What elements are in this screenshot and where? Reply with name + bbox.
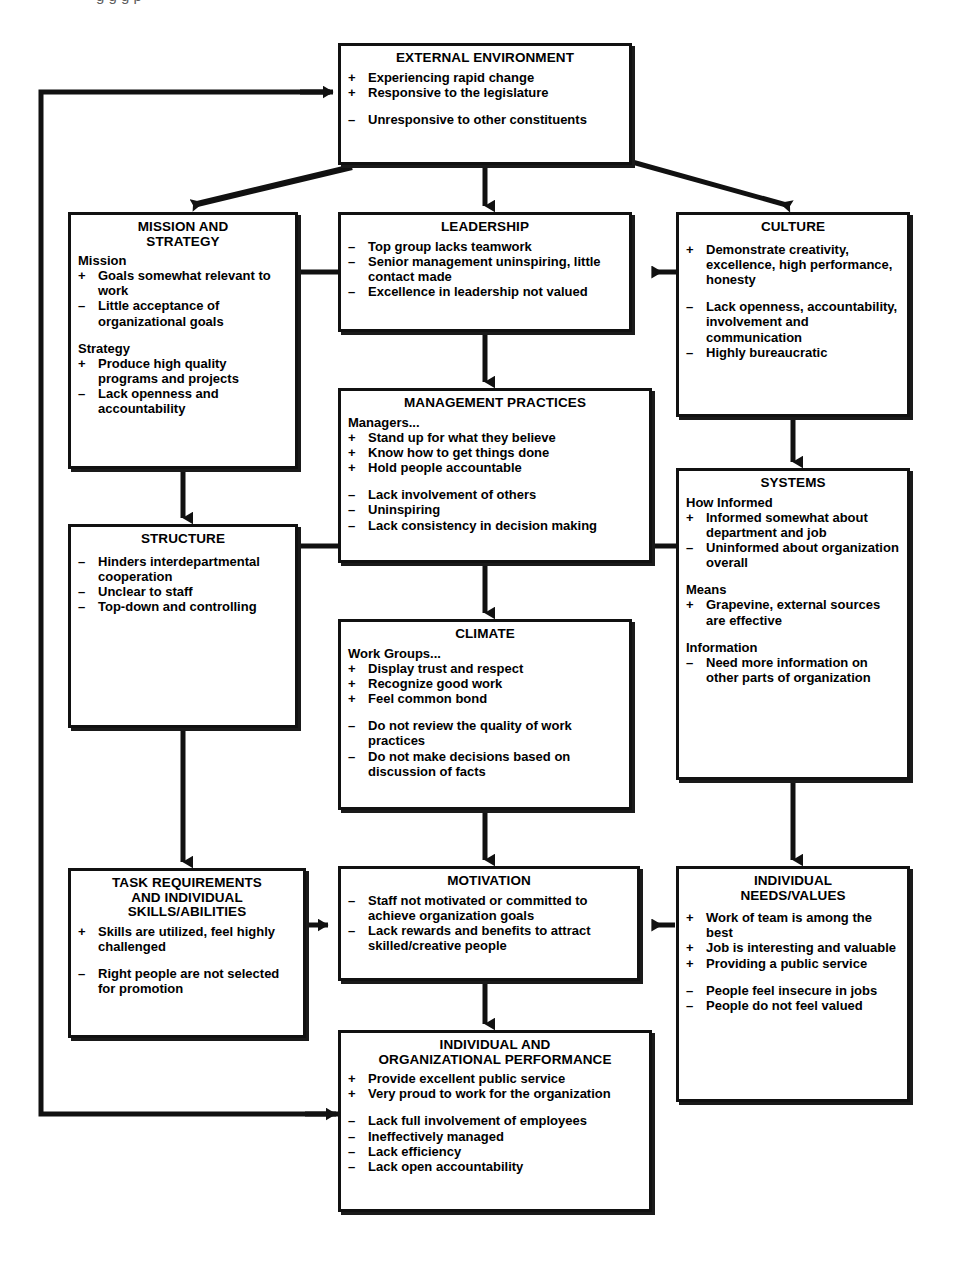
node-body: TASK REQUIREMENTS AND INDIVIDUAL SKILLS/… (71, 871, 303, 1002)
node-culture[interactable]: CULTURE +Demonstrate creativity, excelle… (676, 212, 910, 417)
item-text: Right people are not selected for promot… (98, 966, 279, 996)
item-text: Highly bureaucratic (706, 345, 827, 360)
list-item: –Need more information on other parts of… (686, 655, 900, 685)
node-body: EXTERNAL ENVIRONMENT +Experiencing rapid… (341, 46, 629, 133)
section-subhead: Managers... (348, 415, 642, 430)
list-item: –Lack involvement of others (348, 487, 642, 502)
item-sign: – (686, 983, 700, 998)
item-text: Senior management uninspiring, little co… (368, 254, 601, 284)
item-sign: + (78, 924, 92, 939)
item-text: Staff not motivated or committed to achi… (368, 893, 588, 923)
node-leadership[interactable]: LEADERSHIP –Top group lacks teamwork –Se… (338, 212, 632, 332)
node-external-environment[interactable]: EXTERNAL ENVIRONMENT +Experiencing rapid… (338, 43, 632, 165)
item-text: People do not feel valued (706, 998, 863, 1013)
node-motivation[interactable]: MOTIVATION –Staff not motivated or commi… (338, 866, 640, 981)
node-item-list: +Provide excellent public service +Very … (348, 1071, 642, 1174)
cropped-caption-text: g g g p (96, 0, 142, 4)
node-mission-and-strategy[interactable]: MISSION AND STRATEGY Mission +Goals some… (68, 212, 298, 469)
list-item: +Providing a public service (686, 956, 900, 971)
node-body: INDIVIDUAL AND ORGANIZATIONAL PERFORMANC… (341, 1033, 649, 1180)
item-text: Know how to get things done (368, 445, 549, 460)
item-sign: + (348, 430, 362, 445)
item-sign: – (348, 502, 362, 517)
item-sign: + (348, 1086, 362, 1101)
node-title: MANAGEMENT PRACTICES (348, 396, 642, 411)
list-item: +Demonstrate creativity, excellence, hig… (686, 242, 900, 288)
item-sign: + (686, 242, 700, 257)
node-management-practices[interactable]: MANAGEMENT PRACTICES Managers... +Stand … (338, 388, 652, 563)
node-task-requirements-and-individual-skills[interactable]: TASK REQUIREMENTS AND INDIVIDUAL SKILLS/… (68, 868, 306, 1038)
item-text: Lack openness and accountability (98, 386, 219, 416)
list-item: –Right people are not selected for promo… (78, 966, 296, 996)
node-systems[interactable]: SYSTEMS How Informed +Informed somewhat … (676, 468, 910, 780)
item-sign: + (348, 445, 362, 460)
item-sign: – (348, 1113, 362, 1128)
item-text: Lack full involvement of employees (368, 1113, 587, 1128)
node-body: STRUCTURE –Hinders interdepartmental coo… (71, 527, 295, 620)
list-item: +Skills are utilized, feel highly challe… (78, 924, 296, 954)
item-text: Little acceptance of organizational goal… (98, 298, 224, 328)
item-sign: – (78, 554, 92, 569)
item-sign: – (348, 284, 362, 299)
list-item: –Uninspiring (348, 502, 642, 517)
item-text: Ineffectively managed (368, 1129, 504, 1144)
node-item-list: +Grapevine, external sources are effecti… (686, 597, 900, 627)
node-item-list: +Goals somewhat relevant to work –Little… (78, 268, 288, 329)
item-text: Goals somewhat relevant to work (98, 268, 271, 298)
item-sign: – (78, 599, 92, 614)
list-item: –Top group lacks teamwork (348, 239, 622, 254)
node-title: EXTERNAL ENVIRONMENT (348, 51, 622, 66)
item-sign: + (686, 597, 700, 612)
node-title: CULTURE (686, 220, 900, 235)
list-item: –Lack rewards and benefits to attract sk… (348, 923, 630, 953)
node-individual-needs-values[interactable]: INDIVIDUAL NEEDS/VALUES +Work of team is… (676, 866, 910, 1102)
item-sign: – (348, 112, 362, 127)
item-sign: – (348, 1159, 362, 1174)
list-item: +Grapevine, external sources are effecti… (686, 597, 900, 627)
list-item: –Top-down and controlling (78, 599, 288, 614)
node-body: MISSION AND STRATEGY Mission +Goals some… (71, 215, 295, 423)
node-title: MISSION AND STRATEGY (78, 220, 288, 249)
section-subhead: How Informed (686, 495, 900, 510)
item-sign: + (686, 940, 700, 955)
item-text: Produce high quality programs and projec… (98, 356, 239, 386)
section-subhead: Mission (78, 253, 288, 268)
item-sign: + (78, 268, 92, 283)
node-title: SYSTEMS (686, 476, 900, 491)
item-sign: – (348, 1144, 362, 1159)
node-body: MANAGEMENT PRACTICES Managers... +Stand … (341, 391, 649, 539)
list-item: +Informed somewhat about department and … (686, 510, 900, 540)
item-text: Work of team is among the best (706, 910, 872, 940)
node-title: MOTIVATION (348, 874, 630, 889)
node-item-list: +Skills are utilized, feel highly challe… (78, 924, 296, 997)
item-sign: – (348, 1129, 362, 1144)
item-sign: + (348, 676, 362, 691)
item-text: Grapevine, external sources are effectiv… (706, 597, 880, 627)
list-item: –People do not feel valued (686, 998, 900, 1013)
node-item-list: +Produce high quality programs and proje… (78, 356, 288, 417)
item-sign: – (78, 584, 92, 599)
node-climate[interactable]: CLIMATE Work Groups... +Display trust an… (338, 619, 632, 810)
item-text: Excellence in leadership not valued (368, 284, 588, 299)
item-text: Hold people accountable (368, 460, 522, 475)
list-item: –Lack full involvement of employees (348, 1113, 642, 1128)
node-title: STRUCTURE (78, 532, 288, 547)
connector-external-to-mission-b (190, 160, 347, 206)
item-sign: – (348, 487, 362, 502)
item-sign: + (348, 691, 362, 706)
item-text: Provide excellent public service (368, 1071, 565, 1086)
node-item-list: +Work of team is among the best +Job is … (686, 910, 900, 1013)
list-item: –Lack openness and accountability (78, 386, 288, 416)
list-item: –Lack open accountability (348, 1159, 642, 1174)
list-item: –Little acceptance of organizational goa… (78, 298, 288, 328)
node-structure[interactable]: STRUCTURE –Hinders interdepartmental coo… (68, 524, 298, 728)
list-item: +Know how to get things done (348, 445, 642, 460)
item-text: Top group lacks teamwork (368, 239, 532, 254)
node-individual-and-organizational-performance[interactable]: INDIVIDUAL AND ORGANIZATIONAL PERFORMANC… (338, 1030, 652, 1212)
item-sign: – (348, 518, 362, 533)
item-sign: – (686, 299, 700, 314)
node-title: INDIVIDUAL AND ORGANIZATIONAL PERFORMANC… (348, 1038, 642, 1067)
list-item: –Lack efficiency (348, 1144, 642, 1159)
node-body: SYSTEMS How Informed +Informed somewhat … (679, 471, 907, 691)
item-text: Recognize good work (368, 676, 502, 691)
